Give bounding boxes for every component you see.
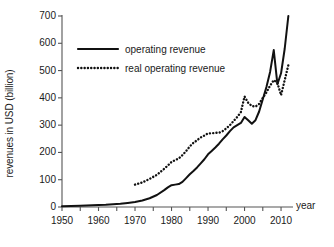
x-tick-label: 2010 [264,216,298,226]
y-tick-label: 0 [28,202,56,212]
y-tick-label: 200 [28,147,56,157]
y-tick-label: 600 [28,38,56,48]
x-axis-tick-labels: 1950196019701980199020002010 [0,216,334,230]
y-tick-label: 700 [28,11,56,21]
legend-label: real operating revenue [125,63,226,74]
x-tick-label: 1950 [45,216,79,226]
x-tick-label: 2000 [228,216,262,226]
y-tick-label: 400 [28,93,56,103]
y-tick-label: 100 [28,175,56,185]
x-tick-label: 1980 [155,216,189,226]
series-line-real-operating-revenue [135,65,288,185]
chart-legend: operating revenuereal operating revenue [78,44,226,74]
y-axis-tick-labels: 0100200300400500600700 [16,0,56,247]
y-tick-label: 300 [28,120,56,130]
x-tick-label: 1990 [191,216,225,226]
x-tick-label: 1960 [82,216,116,226]
x-axis-title: year [296,200,315,211]
chart-container: revenues in USD (billion) year 010020030… [0,0,334,247]
y-tick-label: 500 [28,66,56,76]
legend-label: operating revenue [125,44,206,55]
x-tick-label: 1970 [118,216,152,226]
